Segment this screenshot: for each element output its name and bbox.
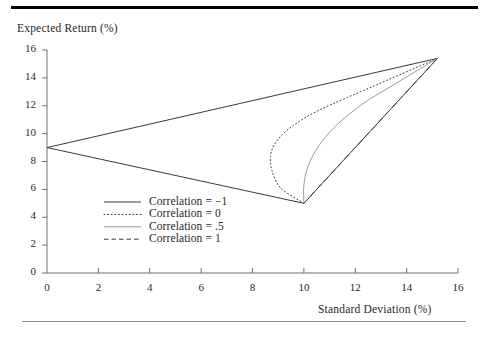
y-tick-label: 12 bbox=[14, 98, 36, 110]
x-tick-label: 10 bbox=[293, 281, 315, 293]
y-axis-ticks bbox=[42, 50, 47, 273]
x-tick-label: 8 bbox=[242, 281, 264, 293]
legend-swatch-group bbox=[104, 202, 141, 239]
x-tick-label: 0 bbox=[36, 281, 58, 293]
x-tick-label: 4 bbox=[139, 281, 161, 293]
y-tick-label: 4 bbox=[14, 209, 36, 221]
legend-item-label: Correlation = 0 bbox=[149, 207, 221, 219]
legend-item-label: Correlation = 1 bbox=[149, 232, 221, 244]
x-tick-label: 2 bbox=[87, 281, 109, 293]
bottom-divider-rule bbox=[22, 321, 466, 322]
chart-series-group bbox=[47, 58, 437, 203]
y-tick-label: 6 bbox=[14, 181, 36, 193]
chart-series-line bbox=[304, 58, 438, 203]
y-tick-label: 16 bbox=[14, 42, 36, 54]
x-tick-label: 6 bbox=[190, 281, 212, 293]
chart-series-line bbox=[270, 58, 437, 203]
y-tick-label: 14 bbox=[14, 70, 36, 82]
x-axis-ticks bbox=[98, 268, 458, 273]
x-tick-label: 16 bbox=[447, 281, 469, 293]
y-tick-label: 2 bbox=[14, 237, 36, 249]
x-tick-label: 14 bbox=[396, 281, 418, 293]
y-tick-label: 8 bbox=[14, 154, 36, 166]
figure-root: Expected Return (%) Standard Deviation (… bbox=[0, 0, 489, 338]
x-tick-label: 12 bbox=[344, 281, 366, 293]
y-tick-label: 10 bbox=[14, 126, 36, 138]
y-tick-label: 0 bbox=[14, 265, 36, 277]
legend-item-label: Correlation = .5 bbox=[149, 220, 224, 232]
chart-series-line bbox=[47, 58, 437, 147]
legend-item-label: Correlation = −1 bbox=[149, 195, 227, 207]
